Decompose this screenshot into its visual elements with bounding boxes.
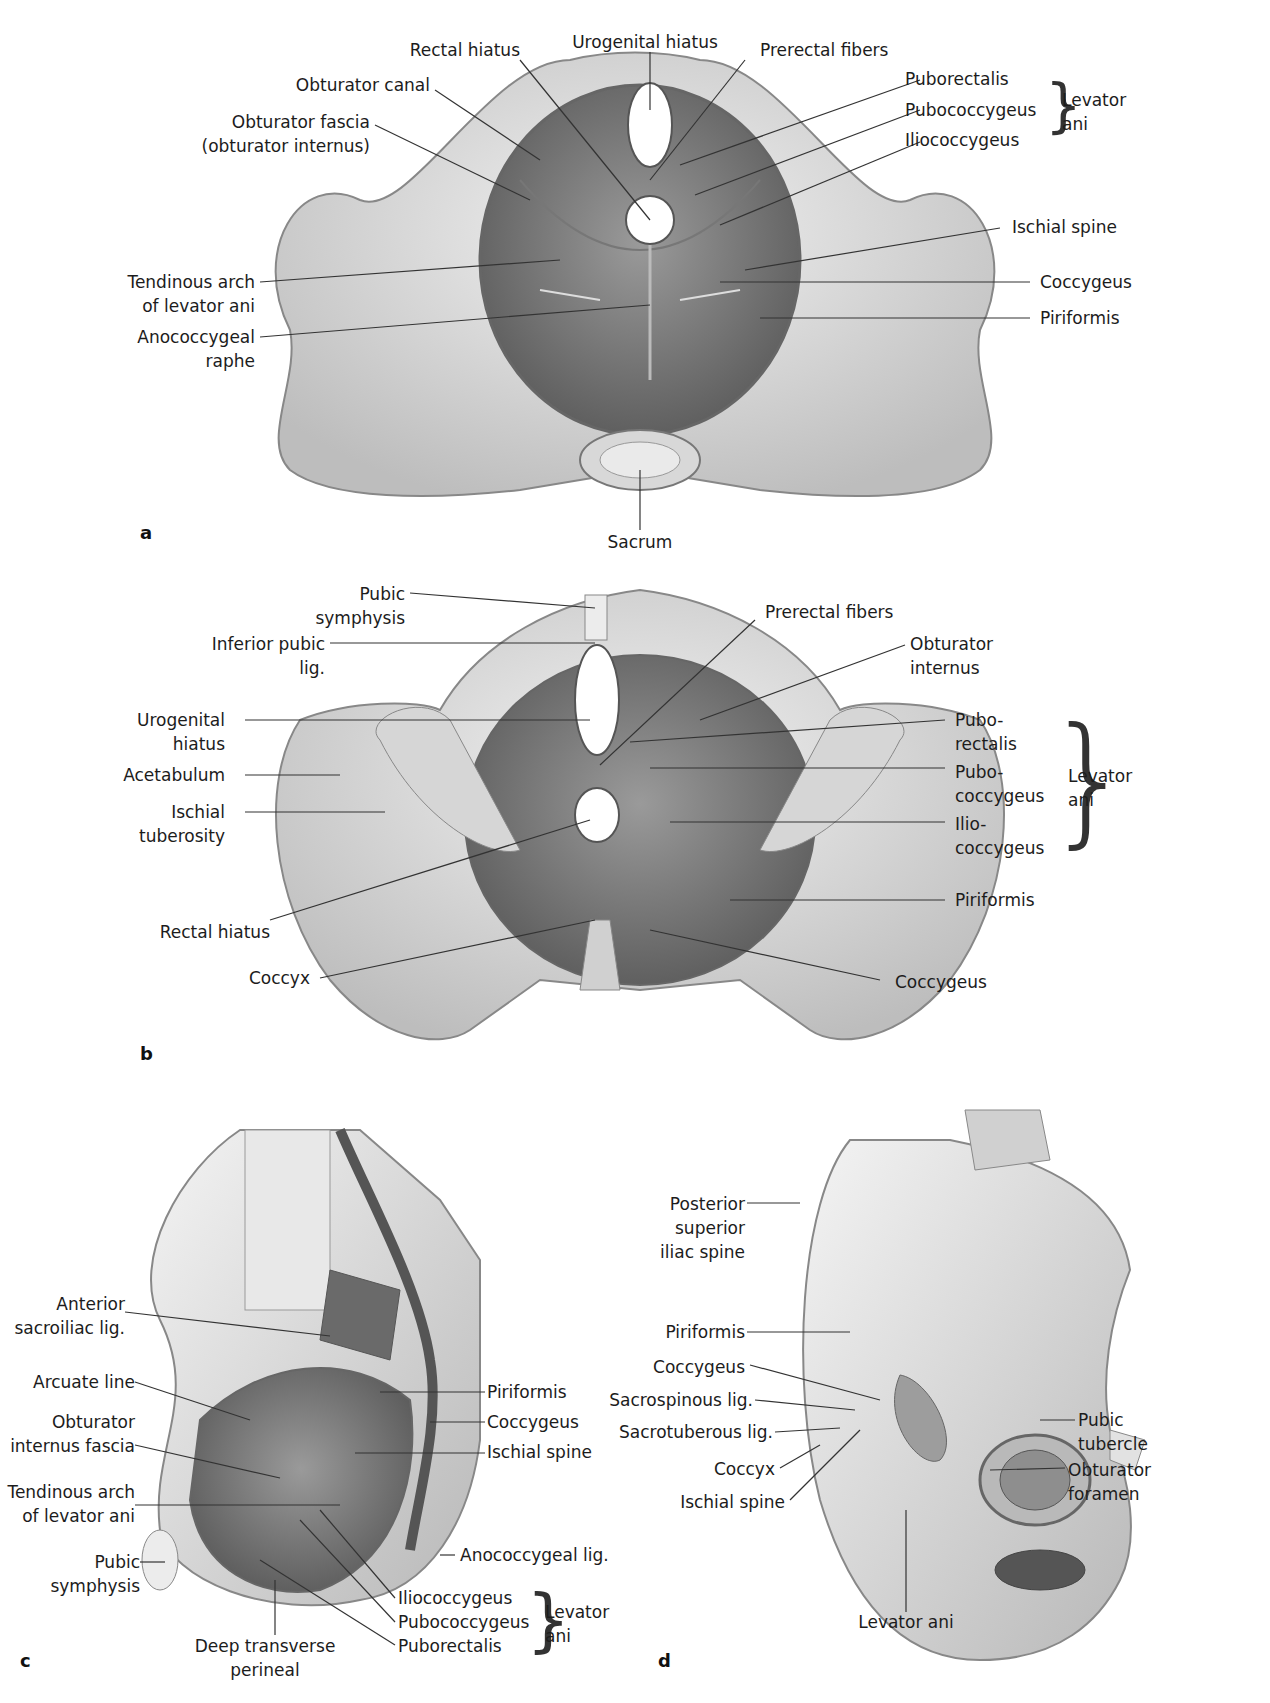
label-sacrospinous-lig: Sacrospinous lig. xyxy=(600,1388,753,1412)
label-acetabulum: Acetabulum xyxy=(100,763,225,787)
label-rectal-hiatus-a: Rectal hiatus xyxy=(380,38,520,62)
label-coccyx-b: Coccyx xyxy=(210,966,310,990)
label-obturator-foramen: Obturator foramen xyxy=(1068,1458,1168,1506)
label-pubococcygeus-c: Pubococcygeus xyxy=(398,1610,533,1634)
label-inferior-pubic-lig: Inferior pubic lig. xyxy=(180,632,325,680)
label-levator-ani-a: Levator ani xyxy=(1062,88,1142,136)
label-coccygeus-d: Coccygeus xyxy=(640,1355,745,1379)
label-ischial-spine-a: Ischial spine xyxy=(1012,215,1152,239)
label-obturator-fascia: Obturator fascia (obturator internus) xyxy=(170,110,370,158)
label-levator-ani-c: Levator ani xyxy=(545,1600,615,1648)
label-anterior-sacroiliac-lig: Anterior sacroiliac lig. xyxy=(10,1292,125,1340)
panel-letter-d: d xyxy=(658,1650,671,1671)
panel-a-figure xyxy=(276,53,995,496)
label-urogenital-hiatus-a: Urogenital hiatus xyxy=(560,30,730,54)
label-iliococcygeus-c: Iliococcygeus xyxy=(398,1586,533,1610)
label-piriformis-c: Piriformis xyxy=(487,1380,607,1404)
label-pubic-tubercle: Pubic tubercle xyxy=(1078,1408,1168,1456)
label-tendinous-arch-a: Tendinous arch of levator ani xyxy=(80,270,255,318)
label-ischial-spine-d: Ischial spine xyxy=(665,1490,785,1514)
label-tendinous-arch-c: Tendinous arch of levator ani xyxy=(0,1480,135,1528)
label-coccyx-d: Coccyx xyxy=(690,1457,775,1481)
label-posterior-superior-iliac-spine: Posterior superior iliac spine xyxy=(650,1192,745,1264)
label-urogenital-hiatus-b: Urogenital hiatus xyxy=(100,708,225,756)
label-rectal-hiatus-b: Rectal hiatus xyxy=(120,920,270,944)
panel-d-figure xyxy=(803,1110,1145,1660)
label-puborectalis-c: Puborectalis xyxy=(398,1634,533,1658)
label-anococcygeal-raphe: Anococcygeal raphe xyxy=(100,325,255,373)
label-obturator-internus-b: Obturator internus xyxy=(910,632,1030,680)
label-ischial-tuberosity: Ischial tuberosity xyxy=(100,800,225,848)
panel-letter-c: c xyxy=(20,1650,31,1671)
label-sacrum: Sacrum xyxy=(590,530,690,554)
label-piriformis-d: Piriformis xyxy=(650,1320,745,1344)
label-obturator-canal: Obturator canal xyxy=(250,73,430,97)
label-piriformis-a: Piriformis xyxy=(1040,306,1170,330)
label-deep-transverse-perineal: Deep transverse perineal xyxy=(185,1634,345,1682)
label-pubic-symphysis-c: Pubic symphysis xyxy=(0,1550,140,1598)
label-levator-ani-b: Levator ani xyxy=(1068,764,1148,812)
label-arcuate-line: Arcuate line xyxy=(10,1370,135,1394)
label-pubococcygeus-a: Pubococcygeus xyxy=(905,98,1065,122)
label-prerectal-fibers-a: Prerectal fibers xyxy=(760,38,920,62)
label-sacrotuberous-lig: Sacrotuberous lig. xyxy=(610,1420,773,1444)
label-coccygeus-b: Coccygeus xyxy=(895,970,1025,994)
label-prerectal-fibers-b: Prerectal fibers xyxy=(765,600,945,624)
label-ischial-spine-c: Ischial spine xyxy=(487,1440,607,1464)
label-coccygeus-a: Coccygeus xyxy=(1040,270,1170,294)
panel-letter-b: b xyxy=(140,1043,153,1064)
label-piriformis-b: Piriformis xyxy=(955,888,1085,912)
label-levator-ani-d: Levator ani xyxy=(836,1610,976,1634)
label-iliococcygeus-a: Iliococcygeus xyxy=(905,128,1065,152)
label-pubic-symphysis-b: Pubic symphysis xyxy=(290,582,405,630)
label-anococcygeal-lig: Anococcygeal lig. xyxy=(460,1543,620,1567)
label-obturator-internus-fascia: Obturator internus fascia xyxy=(0,1410,135,1458)
panel-letter-a: a xyxy=(140,522,152,543)
panel-c-figure xyxy=(142,1130,480,1605)
label-puborectalis-a: Puborectalis xyxy=(905,67,1065,91)
label-coccygeus-c: Coccygeus xyxy=(487,1410,607,1434)
